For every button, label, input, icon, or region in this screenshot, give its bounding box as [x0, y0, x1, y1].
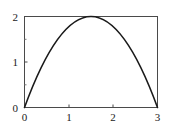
y-axis-label-0: 0	[13, 102, 19, 114]
x-axis-label-2: 2	[110, 111, 116, 123]
parabola-chart: 2 1 0 0 1 2 3	[0, 0, 171, 128]
x-axis-label-1: 1	[66, 111, 72, 123]
chart-container: 2 1 0 0 1 2 3	[0, 0, 171, 128]
x-axis-label-3: 3	[155, 111, 161, 123]
x-axis-label-0: 0	[22, 111, 28, 123]
y-axis-label-1: 1	[13, 56, 19, 68]
y-axis-label-2: 2	[13, 11, 19, 23]
